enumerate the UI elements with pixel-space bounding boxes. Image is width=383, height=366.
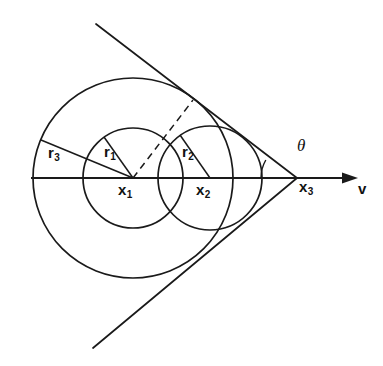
label-r1: r1 xyxy=(104,144,115,159)
label-r3: r3 xyxy=(48,145,59,160)
label-x2: x2 xyxy=(196,182,210,197)
label-x1: x1 xyxy=(118,182,132,197)
figure-canvas: r3 r1 r2 x1 x2 x3 θ v xyxy=(0,0,383,366)
label-x3: x3 xyxy=(299,179,313,194)
tangent-line-lower xyxy=(93,178,297,348)
label-theta: θ xyxy=(297,137,305,154)
label-r2: r2 xyxy=(182,144,193,159)
theta-angle-arc xyxy=(261,160,266,178)
axis-arrowhead-icon xyxy=(342,173,358,184)
tangent-line-upper xyxy=(96,24,297,178)
diagram-svg xyxy=(0,0,383,366)
dashed-tangency-line xyxy=(133,100,193,178)
label-v: v xyxy=(358,181,366,196)
